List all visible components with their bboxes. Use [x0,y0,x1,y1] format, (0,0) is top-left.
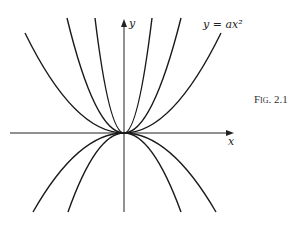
parabola-positive-wide [25,33,221,133]
figure-caption: Fig. 2.1 [254,93,288,105]
y-axis-label: y [128,17,136,30]
equation-label: y = ax² [202,18,243,31]
x-axis-label: x [228,135,235,148]
y-axis-arrow-icon [121,19,127,27]
parabola-family-diagram: y x y = ax² Fig. 2.1 [0,0,303,225]
